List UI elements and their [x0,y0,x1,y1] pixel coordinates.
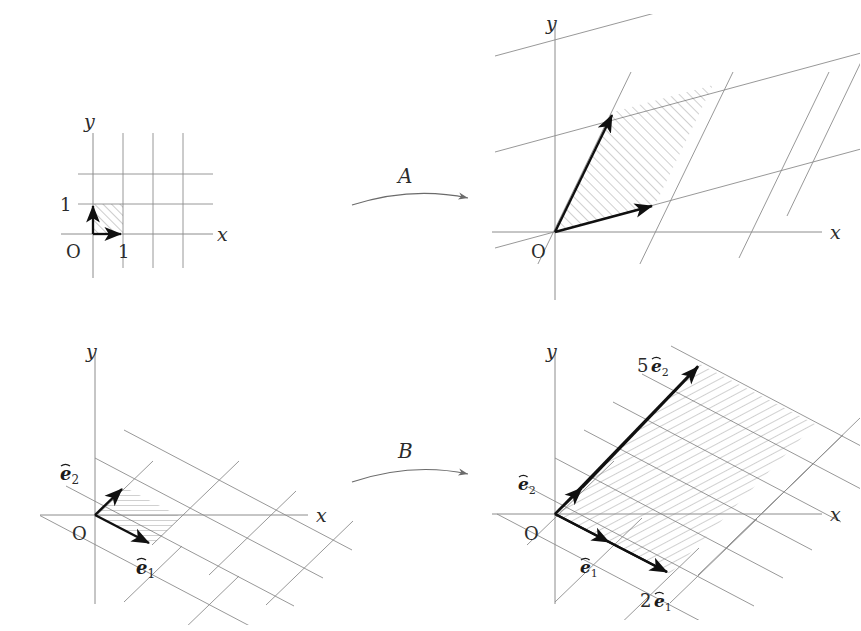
origin-label-bottom-right: O [524,523,539,544]
origin-label-bottom-left: O [72,523,87,544]
parallelogram-B-hatched [555,364,815,574]
e2-tilde-subscript-br: 2 [529,484,536,497]
label-e2-tilde-bottom-left: e2 [60,463,79,487]
e2-tilde-subscript: 2 [71,473,79,487]
e2-tilde-subscript-scaled: 2 [662,366,669,379]
panel-bottom-right: y x O e2 e1 5 e2 2 [492,340,861,631]
origin-label-top-left: O [66,241,81,262]
panel-bottom-left: y x O e2 e1 [37,340,353,631]
arrow-A-label: A [396,164,412,188]
axis-label-y-top-right: y [545,12,557,34]
tick-label-y-1: 1 [60,194,71,215]
svg-text:e2: e2 [518,474,536,497]
axis-label-x-bottom-left: x [316,504,327,526]
axis-label-x-top-right: x [830,221,841,243]
axes-bottom-left [40,352,308,604]
e1-tilde-subscript-br: 1 [591,567,598,580]
unit-square-hatched [93,204,123,234]
svg-text:e2: e2 [651,356,669,379]
label-e1-tilde-bottom-right: e1 [580,557,598,580]
label-2-e1-tilde: 2 e1 [640,590,672,614]
arrow-B-label: B [397,439,413,463]
svg-text:e2: e2 [60,463,79,487]
arrow-B: B [352,439,468,482]
lattice-grid-standard [78,133,213,268]
panel-top-right: y x O [492,0,861,300]
label-5-e2-tilde: 5 e2 [637,355,669,379]
axis-label-x-bottom-right: x [830,503,841,525]
svg-text:e1: e1 [136,557,155,581]
e1-tilde-subscript-scaled: 1 [665,601,672,614]
axis-label-y-bottom-right: y [545,340,557,362]
axis-label-x-top-left: x [217,223,228,245]
axis-label-y-bottom-left: y [85,340,97,362]
e1-tilde-subscript: 1 [147,567,155,581]
arrow-A: A [352,164,468,205]
svg-text:e1: e1 [654,591,672,614]
axis-label-y-top-left: y [83,110,95,132]
math-figure: y x O 1 1 A [0,0,861,631]
coeff-5: 5 [637,355,648,376]
origin-label-top-right: O [531,241,546,262]
coeff-2: 2 [640,590,651,611]
label-e2-tilde-bottom-right: e2 [518,474,536,497]
axes-top-left [61,133,213,278]
svg-text:e1: e1 [580,557,598,580]
label-e1-tilde-bottom-left: e1 [136,557,155,581]
tick-label-x-1: 1 [118,241,129,262]
panel-top-left: y x O 1 1 [60,110,228,278]
